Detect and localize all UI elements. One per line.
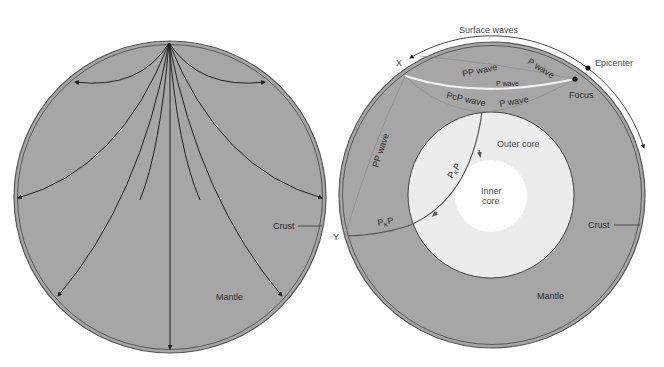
left-crust-label: Crust — [273, 221, 295, 231]
outer-core-label: Outer core — [497, 139, 540, 149]
focus-point — [572, 76, 577, 81]
left-mantle-label: Mantle — [216, 292, 243, 302]
epicenter-point — [585, 65, 590, 70]
right-earth-diagram: Surface waves Epicenter Focus X Y PP wav… — [333, 25, 645, 348]
y-point-label: Y — [333, 232, 339, 242]
left-earth-diagram: Crust Mantle — [14, 41, 326, 353]
epicenter-label: Epicenter — [595, 58, 633, 68]
seismic-wave-diagrams: Crust Mantle Surface waves Epicenter Foc… — [0, 0, 664, 367]
right-mantle-label: Mantle — [537, 291, 564, 301]
inner-core-label-line2: core — [482, 196, 500, 206]
inner-core-label-line1: Inner — [481, 186, 502, 196]
x-point-label: X — [396, 58, 402, 68]
surface-waves-label: Surface waves — [459, 25, 519, 35]
focus-label: Focus — [569, 90, 594, 100]
p-wave-mid-label: P wave — [496, 80, 519, 87]
right-crust-label: Crust — [588, 220, 610, 230]
